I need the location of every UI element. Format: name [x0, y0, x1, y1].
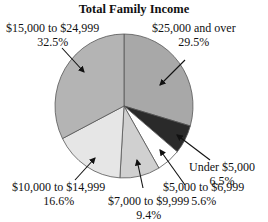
label-15000-24999: $15,000 to $24,999 32.5% — [6, 21, 99, 49]
arrow-under-5000 — [177, 135, 210, 160]
label-25000-over: $25,000 and over 29.5% — [152, 21, 236, 49]
label-7000-9999: $7,000 to $9,999 9.4% — [108, 194, 189, 222]
label-10000-14999: $10,000 to $14,999 16.6% — [12, 180, 105, 208]
